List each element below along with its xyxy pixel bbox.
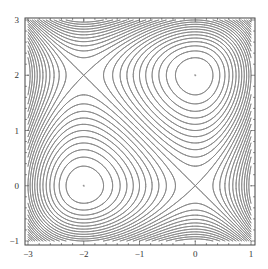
y-tick-label: 3 [15,15,20,25]
y-tick-label: 1 [15,126,20,136]
x-tick-label: 0 [193,249,198,259]
y-tick-label: 2 [15,70,20,80]
y-tick-label: −1 [9,236,19,246]
y-tick-label: 0 [15,181,20,191]
x-tick-label: −1 [135,249,145,259]
x-tick-label: −3 [23,249,33,259]
contour-lines [28,20,251,241]
x-tick-label: 1 [249,249,254,259]
x-tick-label: −2 [79,249,89,259]
contour-path [28,20,251,241]
contour-plot: −3−2−101 −10123 [0,0,268,269]
